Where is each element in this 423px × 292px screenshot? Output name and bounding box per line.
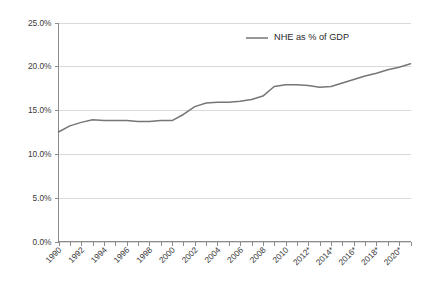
- legend-label: NHE as % of GDP: [274, 32, 349, 42]
- chart-container: 0.0%5.0%10.0%15.0%20.0%25.0% 19901992199…: [0, 0, 423, 292]
- y-tick-label: 15.0%: [28, 105, 52, 115]
- y-tick-label: 0.0%: [33, 237, 53, 247]
- y-tick-label: 10.0%: [28, 149, 52, 159]
- line-chart: 0.0%5.0%10.0%15.0%20.0%25.0% 19901992199…: [0, 0, 423, 292]
- y-tick-label: 5.0%: [33, 193, 53, 203]
- y-tick-label: 20.0%: [28, 61, 52, 71]
- y-tick-label: 25.0%: [28, 18, 52, 28]
